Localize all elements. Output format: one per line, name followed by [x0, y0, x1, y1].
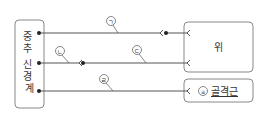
stomach-box: 위 — [184, 22, 253, 72]
ganglion-dot — [164, 31, 168, 35]
marker-ga: ㄱ — [107, 17, 119, 34]
pathway-d — [39, 88, 190, 94]
neuron-dot — [37, 61, 41, 65]
skeletal-muscle-label: 골격근 — [211, 85, 238, 97]
pathway-b — [39, 60, 190, 66]
svg-text:ㄱ: ㄱ — [108, 18, 114, 25]
marker-ra: ㄹ — [100, 75, 114, 92]
svg-text:ㄷ: ㄷ — [134, 47, 140, 54]
stomach-label: 위 — [214, 41, 223, 53]
marker-na: ㄴ — [56, 47, 70, 64]
nervous-pathway-diagram: 중 추 신 경 계 위 a 골격근 — [0, 0, 271, 118]
cns-label: 중 추 신 경 계 — [23, 31, 35, 94]
svg-text:ㄴ: ㄴ — [57, 48, 63, 55]
neuron-dot — [37, 31, 41, 35]
marker-da: ㄷ — [133, 46, 147, 64]
ganglion-dot — [81, 61, 85, 65]
skeletal-muscle-box: a 골격근 — [184, 79, 253, 102]
svg-text:ㄹ: ㄹ — [101, 76, 107, 83]
marker-a: a — [201, 88, 205, 95]
neuron-dot — [37, 89, 41, 93]
